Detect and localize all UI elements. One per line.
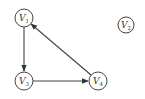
node-v2: V2	[118, 17, 134, 33]
edge-v4-v1	[31, 24, 91, 75]
directed-graph: V1 V2 V3 V4	[0, 0, 145, 99]
node-v1: V1	[15, 9, 33, 27]
node-v4: V4	[89, 72, 107, 90]
node-v3: V3	[15, 72, 33, 90]
